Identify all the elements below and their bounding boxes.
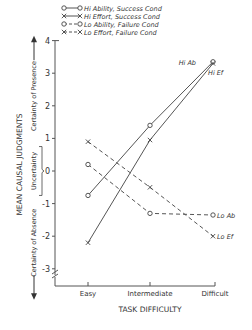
legend-label: Hi Ability, Success Cond [84,5,163,13]
y-tick-label: -2 [42,232,50,241]
y-tick-label: 1 [45,134,50,143]
data-point-marker [148,185,152,189]
y-axis-title: MEAN CAUSAL JUDGMENTS [15,113,24,215]
chart: 43210-1-2-3EasyIntermediateDifficultTASK… [0,0,252,330]
data-point-marker [86,162,90,166]
data-point-marker [86,241,90,245]
legend-marker [78,22,82,26]
y-tick-label: -3 [42,265,50,274]
x-tick-label: Easy [80,290,97,298]
legend-marker [78,6,82,10]
data-point-marker [148,138,152,142]
series-line [88,142,213,237]
legend-label: Hi Effort, Success Cond [84,13,161,21]
data-point-marker [148,123,152,127]
legend-marker [62,22,66,26]
series-line [88,164,213,215]
y-annotation-middle: Uncertainty [30,152,38,190]
arrow-down-icon [31,293,37,300]
data-point-marker [86,139,90,143]
series-line [88,62,213,196]
legend-marker [78,30,82,34]
arrow-up-icon [31,36,37,43]
x-axis-title: TASK DIFFICULTY [117,305,181,314]
legend-label: Lo Ability, Failure Cond [84,21,160,29]
x-tick-label: Intermediate [127,290,172,298]
legend-label: Lo Effort, Failure Cond [84,29,158,37]
y-tick-label: -1 [42,200,50,209]
data-point-marker [211,213,215,217]
y-tick-label: 2 [45,102,50,111]
y-tick-label: 3 [45,69,50,78]
data-point-marker [86,193,90,197]
y-tick-label: 0 [45,167,50,176]
data-point-marker [148,211,152,215]
y-tick-label: 4 [45,37,50,46]
data-point-marker [211,234,215,238]
series-end-label: Lo Ef [217,233,235,241]
x-tick-label: Difficult [201,290,228,298]
uncertainty-bracket [39,147,44,196]
series-end-label: Hi Ab [179,59,196,67]
y-annotation-bottom: Certainty of Absence [30,209,38,277]
series-end-label: Lo Ab [217,212,235,220]
y-annotation-top: Certainty of Presence [30,61,38,131]
series-end-label: Hi Ef [208,69,225,77]
legend-marker [62,6,66,10]
